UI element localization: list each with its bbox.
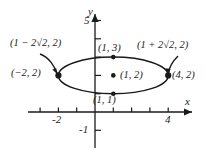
left-focus-leader-arrowhead xyxy=(52,68,57,74)
point-center xyxy=(111,73,116,78)
left-focus-label: (1 − 2√2, 2) xyxy=(10,38,61,49)
left-vertex-label: (−2, 2) xyxy=(11,68,41,79)
x-tick-label-4: 4 xyxy=(165,114,171,125)
right-vertex-label: (4, 2) xyxy=(172,70,195,81)
y-tick-label-neg1: -1 xyxy=(79,124,88,135)
x-tick-label-neg2: -2 xyxy=(52,114,61,125)
x-axis-label: x xyxy=(185,96,190,107)
point-top-covertex xyxy=(111,55,116,60)
bottom-covertex-label: (1, 1) xyxy=(93,95,116,106)
center-label: (1, 2) xyxy=(120,70,143,81)
top-covertex-label: (1, 3) xyxy=(98,43,121,54)
y-tick-label-5: 5 xyxy=(84,15,90,26)
right-focus-label: (1 + 2√2, 2) xyxy=(137,40,188,51)
x-axis-arrowhead xyxy=(184,108,192,115)
